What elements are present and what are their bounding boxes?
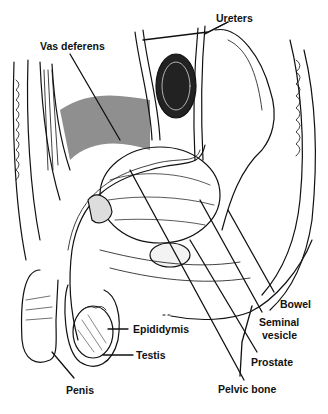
label-penis: Penis bbox=[66, 384, 94, 396]
pubic-bone bbox=[88, 195, 112, 223]
label-ureters: Ureters bbox=[216, 12, 253, 24]
penis-shape bbox=[22, 270, 58, 362]
sacrum-left bbox=[13, 60, 70, 260]
label-vas-deferens: Vas deferens bbox=[40, 40, 105, 52]
scrotum bbox=[65, 285, 119, 366]
label-prostate: Prostate bbox=[251, 356, 293, 368]
label-seminal-vesicle-line1: Seminal bbox=[259, 316, 299, 328]
label-epididymis: Epididymis bbox=[133, 323, 189, 335]
label-bowel: Bowel bbox=[280, 298, 311, 310]
bladder bbox=[100, 147, 220, 243]
label-seminal-vesicle-line2: vesicle bbox=[262, 329, 297, 341]
rectum bbox=[215, 30, 274, 230]
sacrum-right bbox=[262, 40, 315, 310]
label-pelvic-bone: Pelvic bone bbox=[218, 383, 276, 395]
label-testis: Testis bbox=[136, 349, 166, 361]
